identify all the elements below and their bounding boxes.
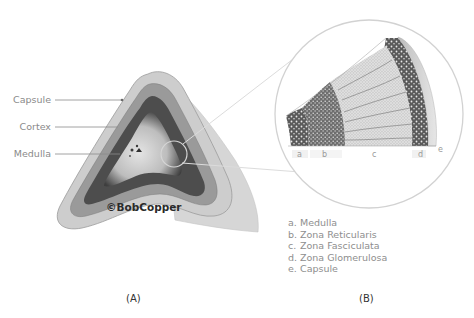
zone-letter-b: b (322, 150, 327, 159)
zone-letter-e: e (438, 145, 443, 154)
legend-item-zona-fasciculata: c. Zona Fasciculata (288, 240, 387, 252)
panel-b-label: (B) (359, 293, 374, 304)
legend-item-capsule: e. Capsule (288, 263, 387, 275)
capsule-label: Capsule (0, 94, 51, 105)
cortex-label: Cortex (0, 121, 51, 132)
copyright-watermark: ©BobCopper (106, 201, 181, 213)
adrenal-gland-diagram: Capsule Cortex Medulla ©BobCopper a b c … (0, 0, 474, 318)
zone-letter-a: a (297, 150, 302, 159)
legend-item-medulla: a. Medulla (288, 217, 387, 229)
legend-item-zona-reticularis: b. Zona Reticularis (288, 229, 387, 241)
zone-legend: a. Medulla b. Zona Reticularis c. Zona F… (288, 217, 387, 275)
zone-letter-d: d (418, 150, 423, 159)
zone-letter-c: c (372, 150, 376, 159)
panel-a-label: (A) (126, 293, 141, 304)
medulla-vessel (131, 149, 134, 152)
medulla-label: Medulla (0, 148, 51, 159)
legend-item-zona-glomerulosa: d. Zona Glomerulosa (288, 252, 387, 264)
diagram-graphics (0, 0, 474, 318)
